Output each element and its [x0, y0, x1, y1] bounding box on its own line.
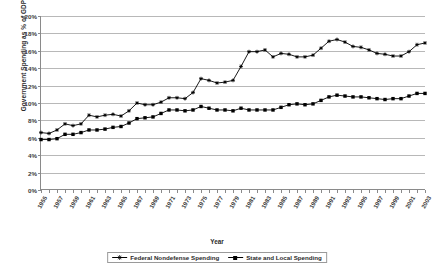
data-point-marker [343, 40, 347, 44]
data-point-marker [55, 137, 58, 140]
data-point-marker [167, 108, 170, 111]
x-tick-label: 1999 [388, 195, 400, 210]
x-tick-mark [353, 190, 354, 193]
x-tick-mark [161, 190, 162, 193]
legend-item[interactable]: State and Local Spending [228, 254, 322, 261]
data-point-marker [223, 108, 226, 111]
data-point-marker [127, 121, 130, 124]
x-tick-mark [289, 190, 290, 193]
y-tick-label: 0% [28, 187, 37, 194]
data-point-marker [407, 94, 410, 97]
x-tick-label: 1981 [244, 195, 256, 210]
x-tick-mark [305, 190, 306, 193]
x-tick-label: 1957 [52, 195, 64, 210]
data-point-marker [383, 52, 387, 56]
x-tick-mark [169, 190, 170, 193]
x-tick-mark [209, 190, 210, 193]
data-point-marker [271, 108, 274, 111]
x-tick-mark [217, 190, 218, 193]
data-point-marker [39, 138, 42, 141]
data-point-marker [39, 131, 43, 135]
data-point-marker [407, 50, 411, 54]
x-tick-label: 1955 [36, 195, 48, 210]
y-tick-label: 14% [25, 65, 37, 72]
data-point-marker [79, 131, 82, 134]
data-point-marker [135, 117, 138, 120]
data-point-marker [271, 55, 275, 59]
x-tick-mark [233, 190, 234, 193]
y-tick-label: 12% [25, 82, 37, 89]
data-point-marker [359, 45, 363, 49]
data-point-marker [215, 108, 218, 111]
y-tick-label: 6% [28, 134, 37, 141]
data-point-marker [47, 132, 51, 136]
x-tick-mark [129, 190, 130, 193]
data-point-marker [191, 108, 194, 111]
data-point-marker [415, 92, 418, 95]
x-tick-mark [369, 190, 370, 193]
data-point-marker [231, 78, 235, 82]
data-point-marker [63, 122, 67, 126]
x-tick-label: 1991 [324, 195, 336, 210]
data-point-marker [415, 43, 419, 47]
data-point-marker [71, 133, 74, 136]
x-tick-mark [113, 190, 114, 193]
x-tick-mark [297, 190, 298, 193]
data-point-marker [143, 116, 146, 119]
x-tick-mark [185, 190, 186, 193]
data-point-marker [183, 109, 186, 112]
x-tick-label: 1963 [100, 195, 112, 210]
x-tick-mark [81, 190, 82, 193]
data-point-marker [143, 103, 147, 107]
data-point-marker [63, 133, 66, 136]
x-tick-mark [41, 190, 42, 193]
x-tick-label: 1979 [228, 195, 240, 210]
data-point-marker [319, 46, 323, 50]
data-point-marker [119, 114, 123, 118]
data-point-marker [311, 53, 315, 57]
data-point-marker [247, 108, 250, 111]
x-tick-mark [73, 190, 74, 193]
x-tick-mark [425, 190, 426, 193]
data-point-marker [255, 108, 258, 111]
chart-container: Government Spending as % of GDP Year 0%2… [0, 0, 434, 271]
x-tick-mark [177, 190, 178, 193]
data-series-layer [41, 16, 425, 190]
data-point-marker [175, 96, 179, 100]
data-point-marker [199, 105, 202, 108]
data-point-marker [263, 108, 266, 111]
data-point-marker [87, 113, 91, 117]
x-tick-mark [121, 190, 122, 193]
data-point-marker [183, 97, 187, 101]
x-tick-label: 1975 [196, 195, 208, 210]
x-tick-label: 2003 [420, 195, 432, 210]
data-point-marker [295, 55, 299, 59]
x-tick-label: 1973 [180, 195, 192, 210]
data-point-marker [263, 48, 267, 52]
data-point-marker [247, 50, 251, 54]
data-point-marker [151, 103, 155, 107]
data-point-marker [231, 109, 234, 112]
data-point-marker [103, 113, 107, 117]
data-point-marker [335, 38, 339, 42]
data-point-marker [423, 41, 427, 45]
x-tick-mark [249, 190, 250, 193]
data-point-marker [303, 103, 306, 106]
x-axis-title: Year [0, 238, 434, 245]
cross-icon [117, 255, 122, 260]
data-point-marker [391, 97, 394, 100]
square-icon [233, 256, 237, 260]
data-point-marker [191, 91, 195, 95]
y-tick-label: 4% [28, 152, 37, 159]
legend-item[interactable]: Federal Nondefense Spending [112, 254, 219, 261]
plot-area: 0%2%4%6%8%10%12%14%16%18%20% 19551957195… [41, 16, 425, 190]
x-tick-label: 1995 [356, 195, 368, 210]
x-tick-mark [193, 190, 194, 193]
x-tick-mark [281, 190, 282, 193]
x-tick-label: 1971 [164, 195, 176, 210]
legend-cross-marker-icon [112, 254, 127, 261]
data-point-marker [255, 50, 259, 54]
data-point-marker [127, 109, 131, 113]
x-tick-label: 1959 [68, 195, 80, 210]
x-tick-mark [321, 190, 322, 193]
